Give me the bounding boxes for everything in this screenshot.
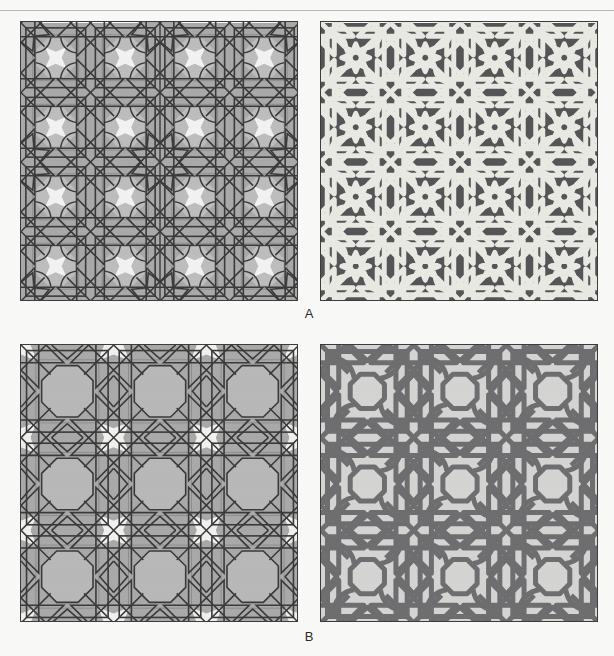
pattern-a-interlace-svg bbox=[321, 22, 598, 301]
row-label-b: B bbox=[294, 629, 324, 644]
panel-a-interlace bbox=[320, 21, 598, 301]
row-label-a: A bbox=[294, 306, 324, 321]
figure-islamic-patterns: A B bbox=[0, 0, 614, 656]
pattern-b-construction-svg bbox=[21, 345, 298, 622]
panel-b-interlace bbox=[320, 344, 598, 622]
pattern-a-construction-svg bbox=[21, 22, 298, 301]
page-top-scan-fragment bbox=[52, 1, 70, 8]
panel-a-construction bbox=[20, 21, 298, 301]
page-top-rule bbox=[0, 10, 614, 11]
pattern-b-interlace-svg bbox=[321, 345, 598, 622]
panel-b-construction bbox=[20, 344, 298, 622]
